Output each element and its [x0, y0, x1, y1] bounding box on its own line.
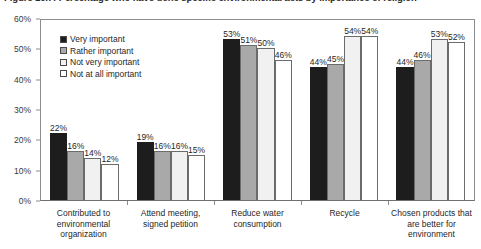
bar-slot: 44%	[310, 20, 327, 200]
bar[interactable]: 15%	[188, 155, 205, 201]
bar-slot: 45%	[327, 20, 344, 200]
bar[interactable]: 44%	[396, 67, 413, 200]
bar-group: 44%46%53%52%	[387, 20, 474, 200]
bar-value-label: 16%	[67, 141, 84, 151]
x-axis-tick	[214, 201, 215, 205]
bar-slot: 15%	[188, 20, 205, 200]
bar[interactable]: 14%	[84, 158, 101, 200]
bar-value-label: 46%	[414, 50, 431, 60]
legend-item-1[interactable]: Rather important	[60, 46, 141, 56]
bar[interactable]: 44%	[310, 67, 327, 200]
bar[interactable]: 54%	[361, 36, 378, 200]
y-axis-tick-label: 60%	[14, 14, 31, 24]
bar-value-label: 16%	[154, 141, 171, 151]
bar-group: 53%51%50%46%	[214, 20, 301, 200]
bar[interactable]: 46%	[414, 60, 431, 200]
x-axis-tick	[388, 201, 389, 205]
bar[interactable]: 16%	[154, 151, 171, 200]
bar[interactable]: 53%	[223, 39, 240, 200]
bar[interactable]: 53%	[431, 39, 448, 200]
bar[interactable]: 45%	[327, 64, 344, 201]
bar-slot: 46%	[414, 20, 431, 200]
bar-value-label: 14%	[84, 148, 101, 158]
x-axis-category-label: Contributed to environmental organizatio…	[40, 208, 127, 240]
bar-value-label: 52%	[448, 32, 465, 42]
bar[interactable]: 50%	[257, 48, 274, 200]
bar-value-label: 44%	[396, 57, 413, 67]
bar-slot: 46%	[275, 20, 292, 200]
legend-item-2[interactable]: Not very important	[60, 57, 141, 67]
bar[interactable]: 12%	[101, 164, 118, 200]
figure-title: Figure 10.7: Percentage who have done sp…	[4, 0, 478, 4]
chart-legend: Very importantRather importantNot very i…	[60, 34, 141, 79]
x-axis-labels: Contributed to environmental organizatio…	[40, 208, 475, 240]
bar-value-label: 53%	[431, 29, 448, 39]
x-axis-category-label: Attend meeting, signed petition	[127, 208, 214, 240]
y-axis-tick-label: 10%	[14, 166, 31, 176]
y-axis-tick-label: 0%	[19, 196, 31, 206]
legend-swatch-icon	[60, 36, 67, 43]
bar[interactable]: 22%	[50, 133, 67, 200]
bar-chart: 0%10%20%30%40%50%60% Very importantRathe…	[0, 12, 481, 249]
bar-value-label: 44%	[310, 57, 327, 67]
bar[interactable]: 16%	[171, 151, 188, 200]
bar-value-label: 15%	[188, 145, 205, 155]
x-axis-category-label: Recycle	[301, 208, 388, 240]
bar-slot: 53%	[431, 20, 448, 200]
bar-slot: 54%	[344, 20, 361, 200]
bar-slot: 44%	[396, 20, 413, 200]
bar-group: 44%45%54%54%	[301, 20, 388, 200]
y-axis-tick-label: 30%	[14, 105, 31, 115]
legend-swatch-icon	[60, 47, 67, 54]
x-axis-category-label: Chosen products that are better for envi…	[388, 208, 475, 240]
bar-slot: 50%	[257, 20, 274, 200]
bar-value-label: 45%	[327, 54, 344, 64]
y-axis-tick-label: 20%	[14, 135, 31, 145]
bar-value-label: 22%	[50, 123, 67, 133]
legend-label: Not at all important	[70, 69, 141, 79]
legend-label: Very important	[70, 34, 125, 44]
y-axis: 0%10%20%30%40%50%60%	[0, 19, 36, 201]
x-axis-tick	[301, 201, 302, 205]
legend-item-0[interactable]: Very important	[60, 34, 141, 44]
y-axis-tick-label: 50%	[14, 44, 31, 54]
legend-item-3[interactable]: Not at all important	[60, 69, 141, 79]
bar-slot: 53%	[223, 20, 240, 200]
bar[interactable]: 19%	[137, 142, 154, 200]
bar[interactable]: 46%	[275, 60, 292, 200]
legend-swatch-icon	[60, 59, 67, 66]
bar-slot: 54%	[361, 20, 378, 200]
bar-slot: 51%	[240, 20, 257, 200]
x-axis-category-label: Reduce water consumption	[214, 208, 301, 240]
legend-swatch-icon	[60, 70, 67, 77]
bar[interactable]: 54%	[344, 36, 361, 200]
bar[interactable]: 16%	[67, 151, 84, 200]
bar-value-label: 50%	[258, 38, 275, 48]
bar-slot: 52%	[448, 20, 465, 200]
plot-area: Very importantRather importantNot very i…	[40, 19, 475, 201]
y-axis-tick-label: 40%	[14, 75, 31, 85]
legend-label: Not very important	[70, 57, 139, 67]
bar-value-label: 53%	[223, 29, 240, 39]
bar-value-label: 54%	[344, 26, 361, 36]
legend-label: Rather important	[70, 46, 133, 56]
bar-value-label: 54%	[361, 26, 378, 36]
x-axis-tick	[127, 201, 128, 205]
bar[interactable]: 51%	[240, 45, 257, 200]
bar-value-label: 19%	[137, 132, 154, 142]
bar-value-label: 46%	[275, 50, 292, 60]
bar-value-label: 12%	[102, 154, 119, 164]
bar-slot: 16%	[154, 20, 171, 200]
bar-slot: 16%	[171, 20, 188, 200]
bar-value-label: 16%	[171, 141, 188, 151]
bar-value-label: 51%	[240, 35, 257, 45]
bar[interactable]: 52%	[448, 42, 465, 200]
